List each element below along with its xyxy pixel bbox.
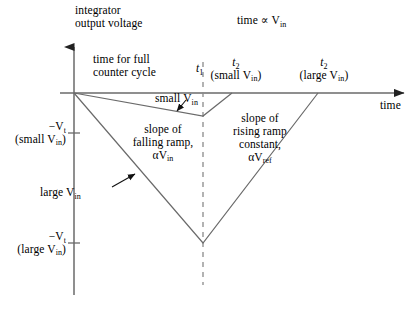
y-axis-title-line2: output voltage	[75, 17, 143, 30]
large-vin-curve-label: large Vin	[40, 186, 81, 199]
integrator-waveform-figure: integrator output voltage time ∝ Vin tim…	[0, 0, 420, 309]
t2-small-vin-tick-label: t2 (small Vin)	[211, 56, 262, 82]
rising-slope-sub: ref	[263, 156, 272, 165]
y-tick-small-symbol-line: −Vt	[15, 120, 66, 133]
y-tick-small-sub: t	[64, 126, 66, 135]
falling-slope-alpha-v: αV	[153, 149, 168, 161]
t2-large-vin-paren-sub: in	[338, 74, 344, 83]
counter-cycle-annotation: time for full counter cycle	[93, 53, 156, 79]
y-tick-small-paren-sub: in	[56, 138, 62, 147]
rising-slope-line4: αVref	[233, 151, 287, 164]
falling-slope-line3: αVin	[133, 149, 194, 162]
t1-subscript: 1	[199, 68, 203, 77]
falling-ramp-slope-annotation: slope of falling ramp, αVin	[133, 123, 194, 162]
t2-large-vin-paren: (large V	[300, 69, 338, 81]
y-tick-large-symbol-line: −Vt	[17, 230, 66, 243]
t2-large-vin-subscript: 2	[324, 62, 328, 71]
y-tick-label-large-vin: −Vt (large Vin)	[17, 230, 66, 256]
time-proportional-text: time ∝ V	[237, 14, 280, 26]
waveform-plot	[0, 0, 420, 309]
small-vin-curve-sub: in	[192, 98, 198, 107]
large-vin-curve-sub: in	[74, 192, 80, 201]
rising-slope-line1: slope of	[233, 112, 287, 125]
t2-small-vin-symbol-line: t2	[211, 56, 262, 69]
y-tick-large-paren: (large V	[17, 243, 55, 255]
rising-slope-alpha-v: αV	[248, 151, 263, 163]
counter-cycle-line2: counter cycle	[93, 66, 156, 79]
rising-slope-line3: constant,	[233, 138, 287, 151]
falling-slope-sub: in	[167, 154, 173, 163]
y-tick-small-paren: (small V	[15, 133, 56, 145]
small-vin-curve-text: small V	[155, 92, 192, 104]
y-axis-title: integrator output voltage	[75, 4, 143, 30]
y-tick-small-symbol: −V	[49, 120, 64, 132]
t2-large-vin-symbol-line: t2	[300, 56, 349, 69]
falling-slope-line2: falling ramp,	[133, 136, 194, 149]
small-vin-curve-label: small Vin	[155, 92, 198, 105]
time-proportional-annotation: time ∝ Vin	[237, 14, 286, 27]
y-tick-label-small-vin: −Vt (small Vin)	[15, 120, 66, 146]
large-vin-leader-arrow	[112, 174, 135, 187]
y-tick-large-paren-line: (large Vin)	[17, 243, 66, 256]
t2-small-vin-paren: (small V	[211, 69, 252, 81]
t2-small-vin-subscript: 2	[236, 62, 240, 71]
t1-tick-label: t1	[196, 62, 203, 75]
t2-large-vin-paren-end: )	[344, 69, 348, 81]
y-axis-title-line1: integrator	[75, 4, 143, 17]
rising-slope-line2: rising ramp	[233, 125, 287, 138]
t2-large-vin-tick-label: t2 (large Vin)	[300, 56, 349, 82]
time-proportional-sub: in	[280, 20, 286, 29]
x-axis-title: time	[380, 99, 401, 112]
large-vin-curve-text: large V	[40, 186, 74, 198]
y-tick-small-paren-line: (small Vin)	[15, 133, 66, 146]
y-tick-large-symbol: −V	[49, 230, 64, 242]
falling-slope-line1: slope of	[133, 123, 194, 136]
y-tick-large-paren-sub: in	[56, 248, 62, 257]
y-tick-large-sub: t	[64, 236, 66, 245]
small-vin-waveform	[74, 93, 232, 116]
t2-small-vin-paren-sub: in	[251, 74, 257, 83]
counter-cycle-line1: time for full	[93, 53, 156, 66]
t2-small-vin-paren-end: )	[258, 69, 262, 81]
rising-ramp-slope-annotation: slope of rising ramp constant, αVref	[233, 112, 287, 164]
